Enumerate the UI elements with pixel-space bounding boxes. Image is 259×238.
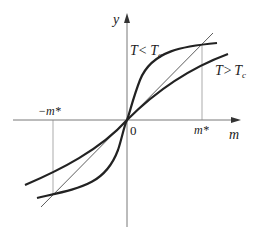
origin-label: 0 bbox=[130, 123, 137, 138]
mean-field-diagram: y m 0 m* −m* T<Tc T>Tc bbox=[0, 0, 259, 238]
y-axis-arrow-icon bbox=[124, 13, 130, 23]
label-t-greater-tc: T>Tc bbox=[215, 63, 246, 80]
y-axis-label: y bbox=[111, 12, 120, 27]
x-axis-label: m bbox=[229, 127, 239, 142]
curve-t-greater-tc bbox=[25, 54, 228, 185]
neg-m-star-label: −m* bbox=[38, 104, 61, 118]
x-axis-arrow-icon bbox=[231, 117, 241, 123]
m-star-label: m* bbox=[194, 123, 209, 137]
label-t-less-tc: T<Tc bbox=[130, 43, 162, 60]
